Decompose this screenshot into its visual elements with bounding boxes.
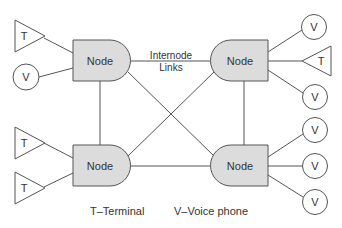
- network-diagram: Node Node Node Node Internode Links T V …: [0, 0, 342, 228]
- voice-phone-device: V: [303, 190, 328, 215]
- node-label: Node: [87, 160, 113, 172]
- voice-label: V: [311, 196, 319, 208]
- caption-line1: Internode: [150, 50, 193, 61]
- legend-voice-phone: V–Voice phone: [174, 205, 248, 217]
- caption-line2: Links: [159, 62, 182, 73]
- terminal-label: T: [318, 55, 325, 67]
- legend-terminal: T–Terminal: [90, 205, 144, 217]
- terminal-label: T: [21, 182, 28, 194]
- node-label: Node: [87, 55, 113, 67]
- node-label: Node: [227, 55, 253, 67]
- terminal-label: T: [21, 30, 28, 42]
- voice-phone-device: V: [303, 154, 328, 179]
- voice-label: V: [22, 71, 30, 83]
- voice-label: V: [311, 124, 319, 136]
- legend: T–Terminal V–Voice phone: [90, 205, 248, 217]
- voice-phone-device: V: [303, 85, 328, 110]
- voice-label: V: [311, 91, 319, 103]
- node-bottom-right: Node: [211, 145, 269, 186]
- voice-label: V: [310, 21, 318, 33]
- terminal-label: T: [21, 137, 28, 149]
- node-top-left: Node: [73, 40, 130, 81]
- terminal-device: T: [15, 172, 45, 204]
- node-top-right: Node: [211, 40, 268, 81]
- terminal-device: T: [15, 127, 45, 159]
- voice-phone-device: V: [303, 118, 328, 143]
- node-label: Node: [227, 160, 253, 172]
- voice-phone-device: V: [13, 64, 39, 90]
- terminal-device: T: [15, 20, 45, 52]
- voice-label: V: [311, 160, 319, 172]
- terminal-device: T: [302, 46, 331, 76]
- node-bottom-left: Node: [73, 145, 131, 186]
- voice-phone-device: V: [302, 15, 327, 40]
